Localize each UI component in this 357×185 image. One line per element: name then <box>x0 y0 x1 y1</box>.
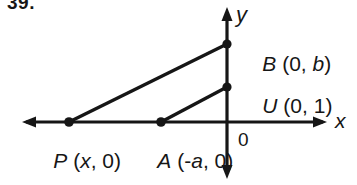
x-axis-left-arrowhead <box>22 117 36 128</box>
point-label-a-value: a <box>191 149 203 172</box>
point-label-b-name: B <box>262 52 276 75</box>
point-label-p-close: , 0) <box>91 149 121 172</box>
point-label-a-close: , 0) <box>203 149 233 172</box>
point-label-p-open: ( <box>67 149 80 172</box>
point-label-b-open: (0, <box>276 52 312 75</box>
problem-number: 39. <box>7 0 35 12</box>
point-label-u-value: 1 <box>314 94 326 117</box>
point-label-u-open: (0, <box>278 94 314 117</box>
point-u <box>222 82 231 91</box>
figure-screenshot: 39. y x B (0, b) U (0, 1) P (x, 0) A (-a… <box>0 0 357 185</box>
point-a <box>156 117 166 127</box>
point-label-p-name: P <box>53 149 67 172</box>
segment-pb <box>69 44 227 122</box>
point-label-b-close: ) <box>324 52 331 75</box>
x-axis-label: x <box>335 110 346 131</box>
point-label-u-name: U <box>262 94 277 117</box>
point-p <box>64 117 74 127</box>
point-label-u-close: ) <box>325 94 332 117</box>
point-label-b-value: b <box>313 52 325 75</box>
segment-au <box>161 87 227 122</box>
point-label-a: A (-a, 0) <box>134 129 233 185</box>
point-label-p: P (x, 0) <box>30 129 121 185</box>
point-label-a-name: A <box>157 149 171 172</box>
point-label-p-value: x <box>80 149 91 172</box>
origin-label: 0 <box>238 130 249 149</box>
point-label-u: U (0, 1) <box>239 74 332 137</box>
y-axis-up-arrowhead <box>222 7 233 21</box>
point-b <box>222 39 231 48</box>
y-axis-label: y <box>236 4 247 26</box>
point-label-a-open: (- <box>171 149 191 172</box>
